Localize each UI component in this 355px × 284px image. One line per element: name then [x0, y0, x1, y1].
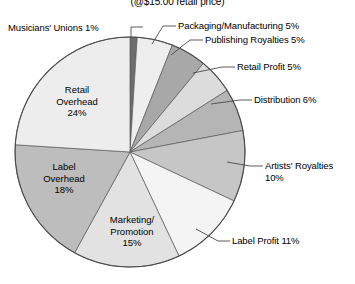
- leader-musicians-unions: [131, 27, 143, 38]
- inpie-label-marketing-promotion: Marketing/ Promotion 15%: [87, 214, 177, 249]
- inpie-retail-overhead-line1: Retail: [34, 84, 120, 96]
- callout-distribution: Distribution 6%: [254, 94, 316, 105]
- inpie-label-label-overhead: Label Overhead 18%: [21, 161, 107, 196]
- inpie-label-overhead-line1: Label: [21, 161, 107, 173]
- inpie-marketing-line2: Promotion: [87, 226, 177, 238]
- callout-publishing: Publishing Royalties 5%: [205, 34, 305, 45]
- inpie-label-overhead-line2: Overhead: [21, 173, 107, 185]
- callout-label-profit: Label Profit 11%: [232, 235, 299, 246]
- pie-chart-figure: (@$15.00 retail price) Musicians' Unions…: [0, 0, 355, 284]
- inpie-retail-overhead-line2: Overhead: [34, 96, 120, 108]
- callout-artists-royalties-line2: 10%: [265, 172, 284, 183]
- callout-retail-profit: Retail Profit 5%: [237, 61, 301, 72]
- inpie-retail-overhead-line3: 24%: [34, 107, 120, 119]
- inpie-marketing-line3: 15%: [87, 237, 177, 249]
- inpie-label-overhead-line3: 18%: [21, 184, 107, 196]
- inpie-label-retail-overhead: Retail Overhead 24%: [34, 84, 120, 119]
- callout-musicians-unions: Musicians' Unions 1%: [8, 22, 99, 33]
- callout-packaging: Packaging/Manufacturing 5%: [178, 20, 299, 31]
- callout-artists-royalties-line1: Artists' Royalties: [265, 160, 333, 171]
- inpie-marketing-line1: Marketing/: [87, 214, 177, 226]
